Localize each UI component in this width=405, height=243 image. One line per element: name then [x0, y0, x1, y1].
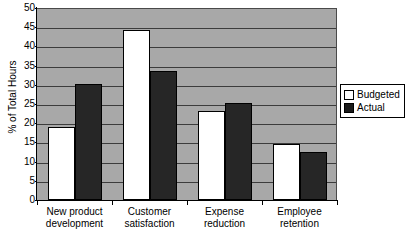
y-tick-label: 15: [14, 137, 35, 147]
bar-budgeted: [273, 144, 300, 200]
category-label-line: Customer: [112, 206, 187, 218]
category-label: Expensereduction: [187, 206, 262, 230]
bar-actual: [225, 103, 252, 200]
y-tick-label: 0: [14, 195, 35, 205]
category-label: Customersatisfaction: [112, 206, 187, 230]
legend-item-actual: Actual: [344, 101, 400, 114]
y-tick-label: 40: [14, 41, 35, 51]
category-label-line: development: [37, 218, 112, 230]
x-axis-separator: [337, 200, 338, 205]
x-axis-category-labels: New productdevelopmentCustomersatisfacti…: [37, 206, 337, 242]
plot-area: [37, 8, 337, 200]
bar-budgeted: [123, 30, 150, 200]
y-tick-label: 35: [14, 61, 35, 71]
legend-item-label: Actual: [357, 103, 385, 113]
y-tick-label: 10: [14, 157, 35, 167]
y-tick-label: 45: [14, 22, 35, 32]
category-label-line: retention: [262, 218, 337, 230]
category-label-line: satisfaction: [112, 218, 187, 230]
category-label-line: Expense: [187, 206, 262, 218]
x-axis-separator: [37, 200, 38, 205]
category-label: Employeeretention: [262, 206, 337, 230]
category-label-line: New product: [37, 206, 112, 218]
legend-swatch-icon: [344, 90, 354, 100]
legend-swatch-icon: [344, 103, 354, 113]
x-axis-separator: [187, 200, 188, 205]
bar-budgeted: [198, 111, 225, 200]
legend-item-budgeted: Budgeted: [344, 88, 400, 101]
legend: BudgetedActual: [340, 84, 405, 118]
y-tick-label: 20: [14, 118, 35, 128]
y-tick-label: 25: [14, 99, 35, 109]
category-label-line: reduction: [187, 218, 262, 230]
y-tick-label: 30: [14, 80, 35, 90]
category-label-line: Employee: [262, 206, 337, 218]
legend-item-label: Budgeted: [357, 90, 400, 100]
bar-actual: [300, 152, 327, 200]
bar-budgeted: [48, 127, 75, 200]
category-label: New productdevelopment: [37, 206, 112, 230]
y-tick-label: 50: [14, 3, 35, 13]
y-tick-label: 5: [14, 176, 35, 186]
bar-actual: [150, 71, 177, 200]
x-axis-separator: [112, 200, 113, 205]
bars-layer: [37, 9, 336, 200]
x-axis-separator: [262, 200, 263, 205]
y-axis-tick-labels: 05101520253035404550: [14, 0, 35, 243]
bar-actual: [75, 84, 102, 200]
